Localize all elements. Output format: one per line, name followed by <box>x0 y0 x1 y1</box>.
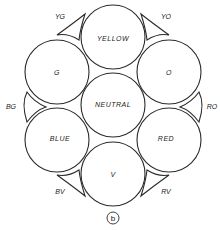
circle-blue: BLUE <box>25 108 89 172</box>
label-yg: YG <box>55 13 66 20</box>
label-v: V <box>110 171 116 178</box>
label-yellow: YELLOW <box>97 35 130 42</box>
color-wheel-diagram: YELLOW O RED V BLUE G NEUTRAL YG YO RO R… <box>0 0 220 230</box>
label-neutral: NEUTRAL <box>95 101 131 108</box>
circle-g: G <box>25 40 89 104</box>
label-g: G <box>54 69 60 76</box>
label-ro: RO <box>207 103 218 110</box>
circle-yellow: YELLOW <box>81 5 145 69</box>
circle-o: O <box>137 40 201 104</box>
label-red: RED <box>158 135 174 142</box>
circle-v: V <box>81 142 145 206</box>
label-bg: BG <box>6 103 17 110</box>
label-rv: RV <box>161 188 172 195</box>
circle-neutral: NEUTRAL <box>81 73 145 137</box>
figure-marker-label: b <box>111 214 116 223</box>
circle-red: RED <box>137 108 201 172</box>
figure-marker: b <box>107 212 119 224</box>
label-o: O <box>166 69 172 76</box>
label-bv: BV <box>55 188 66 195</box>
label-yo: YO <box>161 13 172 20</box>
label-blue: BLUE <box>50 135 70 142</box>
